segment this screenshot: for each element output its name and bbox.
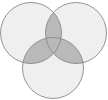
- venn-diagram: [0, 0, 108, 100]
